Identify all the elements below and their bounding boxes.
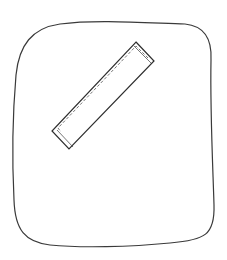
- strip-dashed-line: [58, 46, 148, 132]
- strip-outer: [52, 42, 154, 149]
- outline-shape: [13, 22, 214, 247]
- sketch-drawing: [0, 0, 227, 260]
- sketch-canvas: [0, 0, 227, 260]
